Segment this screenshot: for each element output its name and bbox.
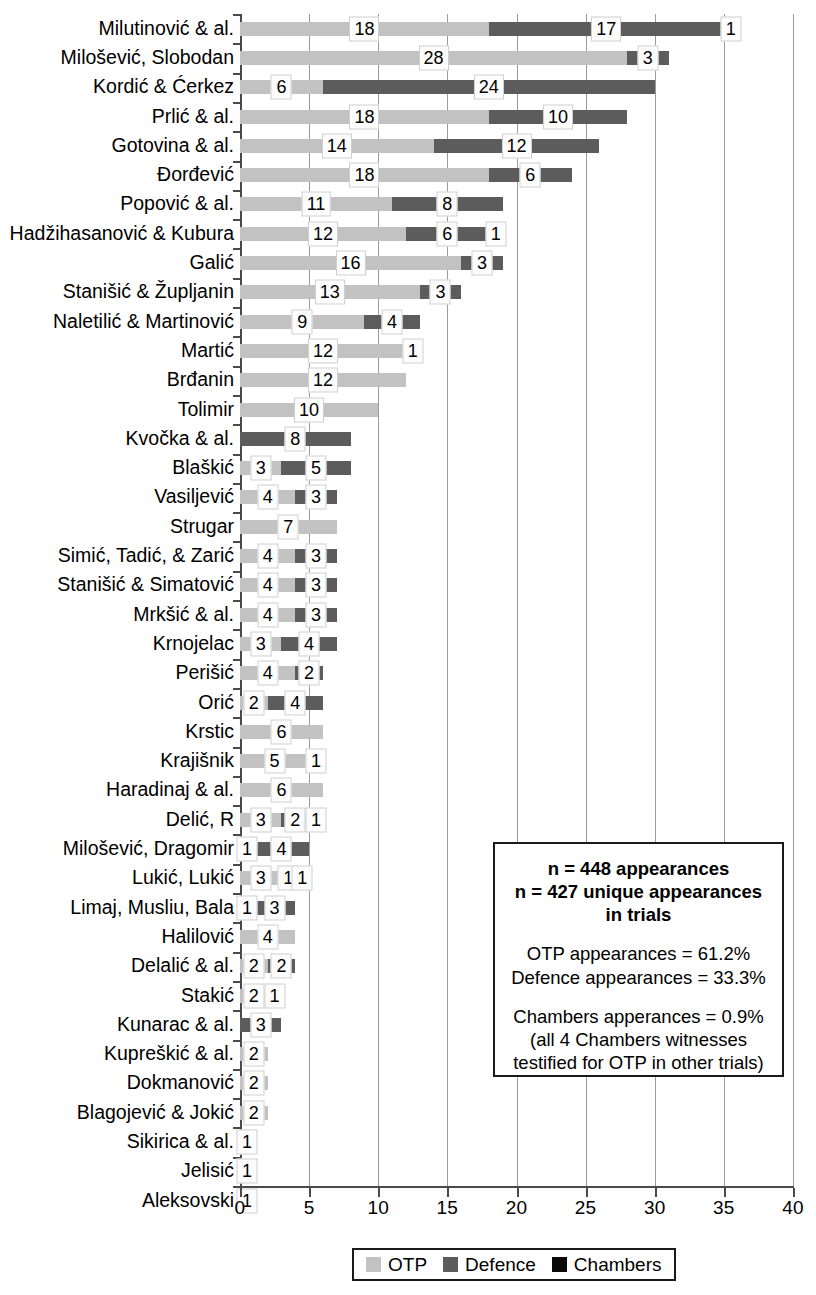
x-tick-label-30: 30 bbox=[625, 1197, 685, 1219]
chart-row: Blaškić35 bbox=[0, 454, 816, 483]
chart-row: Galić163 bbox=[0, 248, 816, 277]
chart-row: Krajišnik51 bbox=[0, 747, 816, 776]
annotation-line-3: in trials bbox=[503, 903, 774, 926]
chart-row: Blagojević & Jokić2 bbox=[0, 1098, 816, 1127]
category-label: Kvočka & al. bbox=[126, 429, 234, 449]
annotation-line-8: testified for OTP in other trials) bbox=[503, 1051, 774, 1074]
y-tick bbox=[233, 747, 241, 749]
value-label-defence: 3 bbox=[306, 602, 327, 627]
value-label-defence: 8 bbox=[437, 192, 458, 217]
annotation-line-7: (all 4 Chambers witnesses bbox=[503, 1028, 774, 1051]
category-label: Krstic bbox=[185, 722, 234, 742]
category-label: Mrkšić & al. bbox=[133, 605, 234, 625]
value-label-otp: 5 bbox=[264, 749, 285, 774]
value-label-otp: 2 bbox=[243, 983, 264, 1008]
legend-swatch-chambers bbox=[552, 1257, 567, 1272]
stacked-bar bbox=[240, 139, 599, 153]
chart-row: Perišić42 bbox=[0, 659, 816, 688]
annotation-line-6: Chambers apperances = 0.9% bbox=[503, 1005, 774, 1028]
annotation-spacer-1 bbox=[503, 926, 774, 942]
value-label-defence: 3 bbox=[637, 45, 658, 70]
value-label-otp: 1 bbox=[236, 895, 257, 920]
chart-row: Mrkšić & al.43 bbox=[0, 600, 816, 629]
chart-row: Prlić & al.1810 bbox=[0, 102, 816, 131]
category-label: Haradinaj & al. bbox=[106, 781, 234, 801]
stacked-bar bbox=[240, 22, 738, 36]
y-tick bbox=[233, 424, 241, 426]
value-label-otp: 3 bbox=[250, 807, 271, 832]
legend-swatch-otp bbox=[366, 1257, 381, 1272]
legend-item-otp: OTP bbox=[366, 1255, 427, 1274]
category-label: Kordić & Ćerkez bbox=[93, 77, 234, 97]
chart-row: Gotovina & al.1412 bbox=[0, 131, 816, 160]
legend-label-chambers: Chambers bbox=[574, 1255, 662, 1274]
value-label-otp: 2 bbox=[243, 1071, 264, 1096]
value-label-otp: 9 bbox=[292, 309, 313, 334]
y-tick bbox=[233, 219, 241, 221]
value-label-otp: 6 bbox=[271, 778, 292, 803]
chart-row: Milošević, Slobodan283 bbox=[0, 43, 816, 72]
stacked-bar-chart: Milutinović & al.18171Milošević, Sloboda… bbox=[0, 0, 816, 1295]
stacked-bar bbox=[240, 80, 655, 94]
category-label: Limaj, Musliu, Bala bbox=[70, 898, 234, 918]
value-label-defence: 3 bbox=[250, 1012, 271, 1037]
y-tick bbox=[233, 571, 241, 573]
value-label-defence: 12 bbox=[501, 133, 531, 158]
value-label-otp: 10 bbox=[294, 397, 324, 422]
category-label: Vasiljević bbox=[154, 488, 234, 508]
value-label-otp: 4 bbox=[257, 924, 278, 949]
value-label-otp: 13 bbox=[315, 280, 345, 305]
category-label: Krajišnik bbox=[160, 751, 234, 771]
value-label-otp: 4 bbox=[257, 544, 278, 569]
x-tick-25 bbox=[586, 1188, 588, 1197]
chart-row: Jelisić1 bbox=[0, 1157, 816, 1186]
x-tick-label-40: 40 bbox=[763, 1197, 816, 1219]
value-label-defence: 10 bbox=[543, 104, 573, 129]
value-label-otp: 3 bbox=[250, 456, 271, 481]
value-label-otp: 2 bbox=[243, 690, 264, 715]
legend-label-otp: OTP bbox=[388, 1255, 427, 1274]
value-label-otp: 14 bbox=[322, 133, 352, 158]
category-label: Simić, Tadić, & Zarić bbox=[58, 546, 234, 566]
y-tick bbox=[233, 161, 241, 163]
x-tick-label-10: 10 bbox=[348, 1197, 408, 1219]
category-label: Stakić bbox=[181, 986, 234, 1006]
annotation-line-4: OTP appearances = 61.2% bbox=[503, 942, 774, 965]
value-label-otp: 6 bbox=[271, 75, 292, 100]
y-tick bbox=[233, 248, 241, 250]
chart-row: Naletilić & Martinović94 bbox=[0, 307, 816, 336]
value-label-otp: 7 bbox=[278, 514, 299, 539]
y-tick bbox=[233, 1010, 241, 1012]
annotation-line-1: n = 448 appearances bbox=[503, 857, 774, 880]
value-label-chambers: 1 bbox=[485, 221, 506, 246]
x-tick-label-15: 15 bbox=[417, 1197, 477, 1219]
chart-row: Krnojelac34 bbox=[0, 629, 816, 658]
category-label: Popović & al. bbox=[120, 195, 234, 215]
chart-row: Orić24 bbox=[0, 688, 816, 717]
legend-swatch-defence bbox=[443, 1257, 458, 1272]
annotation-box: n = 448 appearances n = 427 unique appea… bbox=[493, 842, 784, 1077]
y-tick bbox=[233, 395, 241, 397]
category-label: Milošević, Dragomir bbox=[63, 839, 234, 859]
stacked-bar bbox=[240, 51, 669, 65]
x-tick-label-25: 25 bbox=[556, 1197, 616, 1219]
y-tick bbox=[233, 776, 241, 778]
value-label-defence: 2 bbox=[285, 807, 306, 832]
legend-label-defence: Defence bbox=[465, 1255, 536, 1274]
annotation-spacer-2 bbox=[503, 989, 774, 1005]
x-tick-40 bbox=[793, 1188, 795, 1197]
value-label-defence: 1 bbox=[264, 983, 285, 1008]
chart-row: Stanišić & Simatović43 bbox=[0, 571, 816, 600]
value-label-otp: 12 bbox=[308, 338, 338, 363]
annotation-line-5: Defence appearances = 33.3% bbox=[503, 966, 774, 989]
category-label: Dokmanović bbox=[127, 1074, 234, 1094]
y-tick bbox=[233, 512, 241, 514]
value-label-defence: 4 bbox=[382, 309, 403, 334]
chart-row: Delić, R321 bbox=[0, 805, 816, 834]
chart-row: Stanišić & Župljanin133 bbox=[0, 278, 816, 307]
value-label-defence: 6 bbox=[520, 163, 541, 188]
value-label-otp: 18 bbox=[349, 16, 379, 41]
category-label: Brđanin bbox=[167, 370, 234, 390]
category-label: Kupreškić & al. bbox=[104, 1044, 234, 1064]
category-label: Blagojević & Jokić bbox=[77, 1103, 234, 1123]
